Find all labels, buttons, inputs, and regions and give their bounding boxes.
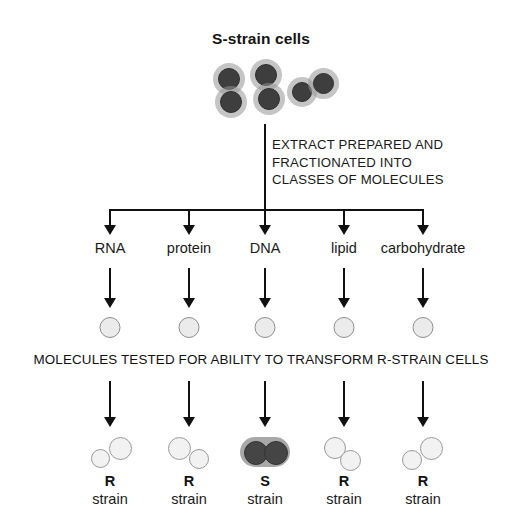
fraction-sample-rna (100, 317, 121, 338)
branch-arrow-carbohydrate (417, 209, 429, 235)
result-cells-protein (160, 437, 218, 469)
fraction-arrow-dna (259, 268, 271, 308)
result-arrow-dna (259, 381, 271, 427)
result-label-rna: R strain (92, 473, 127, 508)
fraction-arrow-protein (183, 268, 195, 308)
r-strain-cell (91, 449, 110, 468)
result-strain-word: strain (326, 490, 361, 508)
s-strain-cell-cluster (0, 58, 522, 120)
s-strain-cell (255, 64, 277, 86)
result-label-protein: R strain (171, 473, 206, 508)
result-cells-carbohydrate (394, 437, 452, 469)
result-strain-word: strain (92, 490, 127, 508)
fraction-sample-carbohydrate (413, 317, 434, 338)
result-label-carbohydrate: R strain (405, 473, 440, 508)
r-strain-cell (420, 437, 443, 460)
result-label-dna: S strain (247, 473, 282, 508)
fraction-arrow-rna (104, 268, 116, 308)
branch-arrow-protein (183, 209, 195, 235)
result-arrow-protein (183, 381, 195, 427)
branch-arrow-dna (259, 209, 271, 235)
s-strain-cell (218, 68, 240, 90)
fraction-arrow-lipid (338, 268, 350, 308)
s-strain-cell (258, 88, 280, 110)
result-strain-letter: S (247, 473, 282, 490)
r-strain-cell (189, 449, 209, 469)
result-cells-lipid (315, 437, 373, 469)
result-strain-letter: R (171, 473, 206, 490)
page-title: S-strain cells (0, 30, 522, 48)
fraction-sample-lipid (334, 317, 355, 338)
s-strain-cell (292, 82, 312, 102)
s-strain-cell (264, 441, 288, 465)
r-strain-cell (402, 450, 422, 470)
trunk-connector-line (264, 124, 266, 210)
result-strain-word: strain (405, 490, 440, 508)
transformation-experiment-diagram: S-strain cells EXTRACT PREPARED AND FRAC… (0, 0, 522, 526)
result-strain-letter: R (326, 473, 361, 490)
fraction-sample-protein (179, 317, 200, 338)
result-cells-dna-s-strain (236, 437, 294, 469)
s-strain-cell (220, 91, 242, 113)
result-cells-rna (81, 437, 139, 469)
fraction-sample-dna (255, 317, 276, 338)
r-strain-cell (168, 437, 191, 460)
result-label-lipid: R strain (326, 473, 361, 508)
result-strain-letter: R (405, 473, 440, 490)
extract-instruction-text: EXTRACT PREPARED AND FRACTIONATED INTO C… (272, 136, 444, 189)
class-label-lipid: lipid (331, 240, 357, 256)
transformation-test-banner: MOLECULES TESTED FOR ABILITY TO TRANSFOR… (0, 352, 522, 367)
class-label-carbohydrate: carbohydrate (381, 240, 466, 256)
class-label-dna: DNA (250, 240, 281, 256)
class-label-protein: protein (167, 240, 211, 256)
result-arrow-lipid (338, 381, 350, 427)
s-strain-cell (313, 73, 334, 94)
result-arrow-rna (104, 381, 116, 427)
result-strain-word: strain (247, 490, 282, 508)
branch-arrow-lipid (338, 209, 350, 235)
class-label-rna: RNA (95, 240, 126, 256)
result-strain-word: strain (171, 490, 206, 508)
result-strain-letter: R (92, 473, 127, 490)
r-strain-cell (340, 450, 361, 471)
result-arrow-carbohydrate (417, 381, 429, 427)
fraction-arrow-carbohydrate (417, 268, 429, 308)
r-strain-cell (109, 437, 132, 460)
branch-arrow-rna (104, 209, 116, 235)
